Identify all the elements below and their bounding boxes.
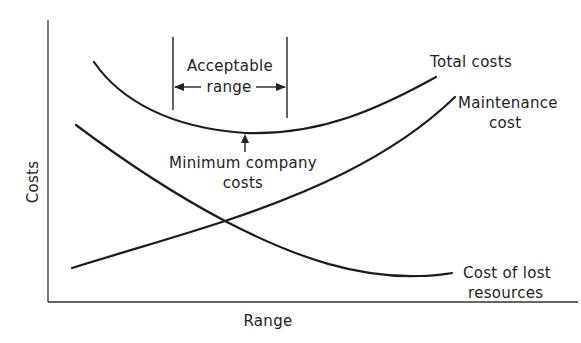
minimum-costs-label-line1: Minimum company (169, 154, 317, 172)
maintenance-cost-label-line2: cost (489, 114, 521, 132)
acceptable-range-label-line2: range (206, 78, 251, 96)
maintenance-cost-label-line1: Maintenance (458, 94, 558, 112)
lost-resources-cost-curve (76, 125, 452, 276)
cost-range-diagram: Costs Range Acceptable range Minimum com… (0, 0, 581, 343)
y-axis-label: Costs (24, 161, 42, 204)
total-costs-label: Total costs (429, 53, 512, 71)
x-axis-label: Range (243, 312, 292, 330)
acceptable-range-label-line1: Acceptable (187, 57, 273, 75)
lost-resources-label-line1: Cost of lost (463, 264, 551, 282)
minimum-costs-label-line2: costs (223, 174, 263, 192)
maintenance-cost-curve (72, 97, 455, 268)
arrowhead-up-icon (241, 134, 249, 143)
arrowhead-right-icon (276, 83, 286, 91)
lost-resources-label-line2: resources (468, 284, 543, 302)
arrowhead-left-icon (174, 83, 184, 91)
